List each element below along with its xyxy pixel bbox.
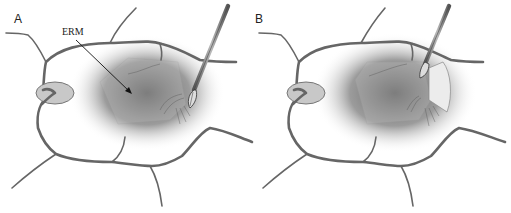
panel-a: ERM A [0, 0, 256, 213]
panel-label-a: A [14, 12, 22, 26]
retina-illustration-b [255, 0, 511, 213]
vessel-superior-branch-2 [259, 33, 299, 62]
panel-label-b: B [255, 12, 263, 26]
erm-label: ERM [62, 26, 84, 37]
panel-b: B [255, 0, 511, 213]
vessel-inferior-branch-2 [401, 166, 413, 206]
retina-illustration-a: ERM [0, 0, 256, 213]
vessel-inferior-branch-2 [150, 166, 162, 206]
vessel-inferior-branch [263, 154, 307, 188]
vessel-inferior-branch [12, 154, 56, 188]
erm-membrane [355, 62, 431, 124]
vessel-superior-branch-2 [6, 33, 46, 62]
